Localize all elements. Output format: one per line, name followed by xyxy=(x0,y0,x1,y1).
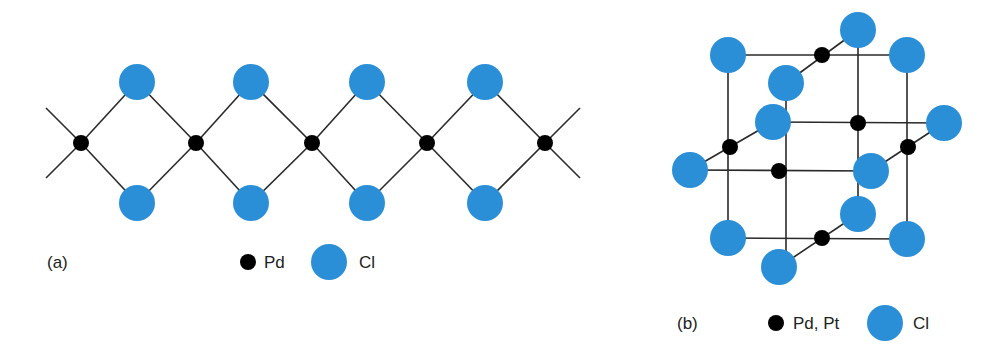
chloride-atom xyxy=(926,105,962,141)
chloride-atom xyxy=(853,153,889,189)
metal-atom xyxy=(722,139,738,155)
legend-a-chloride-label: Cl xyxy=(359,253,375,272)
legend-b-metal-label: Pd, Pt xyxy=(793,314,840,333)
chloride-atom xyxy=(840,12,876,48)
panel-a-palladium-atoms xyxy=(73,135,553,151)
legend-b-metal-dot-icon xyxy=(768,315,784,331)
chloride-atom xyxy=(119,185,155,221)
legend-a-metal-dot-icon xyxy=(240,254,256,270)
chloride-atom xyxy=(233,64,269,100)
panel-b-label: (b) xyxy=(677,314,698,333)
chloride-atom xyxy=(349,64,385,100)
legend-b-chloride-label: Cl xyxy=(913,314,929,333)
chloride-atom xyxy=(755,104,791,140)
palladium-atom xyxy=(537,135,553,151)
chloride-atom xyxy=(467,185,503,221)
chloride-atom xyxy=(672,152,708,188)
chloride-atom xyxy=(889,221,925,257)
panel-a-label: (a) xyxy=(47,253,68,272)
panel-b-metal-atoms xyxy=(722,47,916,246)
chloride-atom xyxy=(710,220,746,256)
palladium-atom xyxy=(419,135,435,151)
metal-atom xyxy=(814,47,830,63)
legend-b-chloride-circle-icon xyxy=(867,305,903,341)
chloride-atom xyxy=(119,64,155,100)
metal-atom xyxy=(900,139,916,155)
metal-atom xyxy=(814,230,830,246)
chloride-atom xyxy=(467,64,503,100)
chloride-atom xyxy=(233,185,269,221)
crystal-structure-diagram: (a) Pd Cl (b) Pd, Pt Cl xyxy=(0,0,994,352)
chloride-atom xyxy=(768,65,804,101)
palladium-atom xyxy=(73,135,89,151)
palladium-atom xyxy=(188,135,204,151)
chloride-atom xyxy=(840,196,876,232)
legend-a-chloride-circle-icon xyxy=(311,244,347,280)
chloride-atom xyxy=(710,37,746,73)
chloride-atom xyxy=(889,37,925,73)
chloride-atom xyxy=(349,185,385,221)
palladium-atom xyxy=(304,135,320,151)
metal-atom xyxy=(850,115,866,131)
chloride-atom xyxy=(761,249,797,285)
metal-atom xyxy=(771,163,787,179)
legend-a-metal-label: Pd xyxy=(264,253,285,272)
